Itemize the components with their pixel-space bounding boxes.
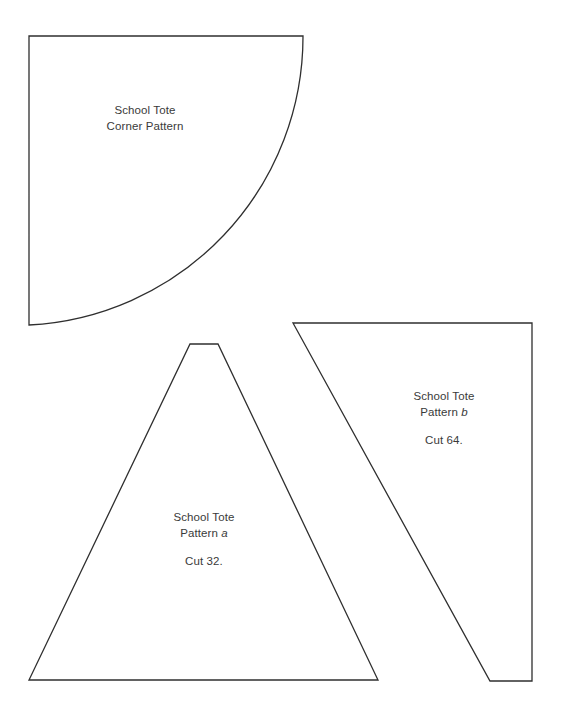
pattern-shapes-canvas: [0, 0, 561, 713]
pattern-b-label-line2: Pattern b: [414, 405, 475, 421]
corner-pattern-label: School Tote Corner Pattern: [107, 103, 184, 134]
pattern-a-cut-note: Cut 32.: [174, 554, 235, 570]
pattern-b-label: School Tote Pattern b Cut 64.: [414, 389, 475, 449]
pattern-a-label-prefix: Pattern: [180, 527, 221, 539]
pattern-a-letter: a: [221, 527, 228, 539]
pattern-sheet: School Tote Corner Pattern School Tote P…: [0, 0, 561, 713]
corner-pattern-outline[interactable]: [29, 36, 303, 325]
pattern-b-letter: b: [461, 406, 468, 418]
corner-pattern-label-line1: School Tote: [107, 103, 184, 119]
pattern-b-label-spacer: [414, 420, 475, 433]
pattern-b-label-prefix: Pattern: [420, 406, 461, 418]
pattern-a-label: School Tote Pattern a Cut 32.: [174, 510, 235, 570]
pattern-b-label-line1: School Tote: [414, 389, 475, 405]
pattern-a-label-line1: School Tote: [174, 510, 235, 526]
corner-pattern-label-line2: Corner Pattern: [107, 119, 184, 135]
pattern-b-cut-note: Cut 64.: [414, 433, 475, 449]
pattern-a-label-line2: Pattern a: [174, 526, 235, 542]
pattern-a-label-spacer: [174, 541, 235, 554]
